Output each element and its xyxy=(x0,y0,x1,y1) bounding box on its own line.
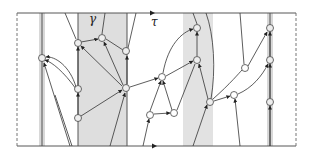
node xyxy=(194,57,201,64)
bottom-arrowhead xyxy=(152,144,157,149)
node xyxy=(75,40,82,47)
edge xyxy=(44,63,70,146)
node xyxy=(194,25,201,32)
gamma-label: γ xyxy=(89,13,96,25)
vertical-strands xyxy=(42,13,270,146)
edge xyxy=(235,99,240,146)
edge xyxy=(130,78,158,87)
node xyxy=(267,99,274,106)
edge xyxy=(128,13,136,48)
node xyxy=(159,74,166,81)
nodes xyxy=(39,25,274,122)
edge xyxy=(65,13,76,39)
edge xyxy=(143,119,149,146)
tau-label: τ xyxy=(151,16,158,28)
frame xyxy=(17,11,296,149)
node xyxy=(242,65,249,72)
node xyxy=(123,48,130,55)
node xyxy=(267,57,274,64)
edge xyxy=(240,13,244,64)
node xyxy=(267,25,274,32)
node xyxy=(75,115,82,122)
node xyxy=(123,85,130,92)
edge xyxy=(154,113,170,114)
node xyxy=(99,35,106,42)
edge xyxy=(214,96,230,101)
node xyxy=(147,112,154,119)
band-middle xyxy=(183,13,213,146)
edge xyxy=(150,81,161,111)
edge xyxy=(55,95,72,146)
edge xyxy=(163,81,172,110)
node xyxy=(207,99,214,106)
node xyxy=(231,92,238,99)
edge xyxy=(45,60,76,89)
node xyxy=(75,86,82,93)
node xyxy=(39,55,46,62)
node xyxy=(171,110,178,117)
edge xyxy=(248,32,267,66)
